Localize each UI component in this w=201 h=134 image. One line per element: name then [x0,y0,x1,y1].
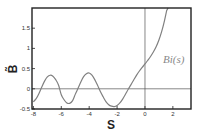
y-tick-label: 0.5 [22,66,31,72]
x-tick-label: -8 [31,111,37,117]
y-axis-title: B̃ [5,64,20,73]
airy-bi-chart: -8-6-4-202 -0.500.511.5 Bi(s) S B̃ [0,0,201,134]
bi-curve [33,8,168,107]
y-tick-label: -0.5 [20,106,31,112]
x-tick-label: -4 [87,111,93,117]
x-tick-label: -6 [59,111,65,117]
y-tick-label: 1.5 [22,25,31,31]
x-tick-label: 2 [171,111,175,117]
x-tick-label: -2 [114,111,120,117]
x-tick-label: 0 [143,111,147,117]
x-axis-ticks: -8-6-4-202 [31,106,175,117]
y-tick-label: 0 [27,86,31,92]
x-axis-title: S [107,118,115,132]
curve-label: Bi(s) [163,53,185,66]
y-tick-label: 1 [27,45,31,51]
